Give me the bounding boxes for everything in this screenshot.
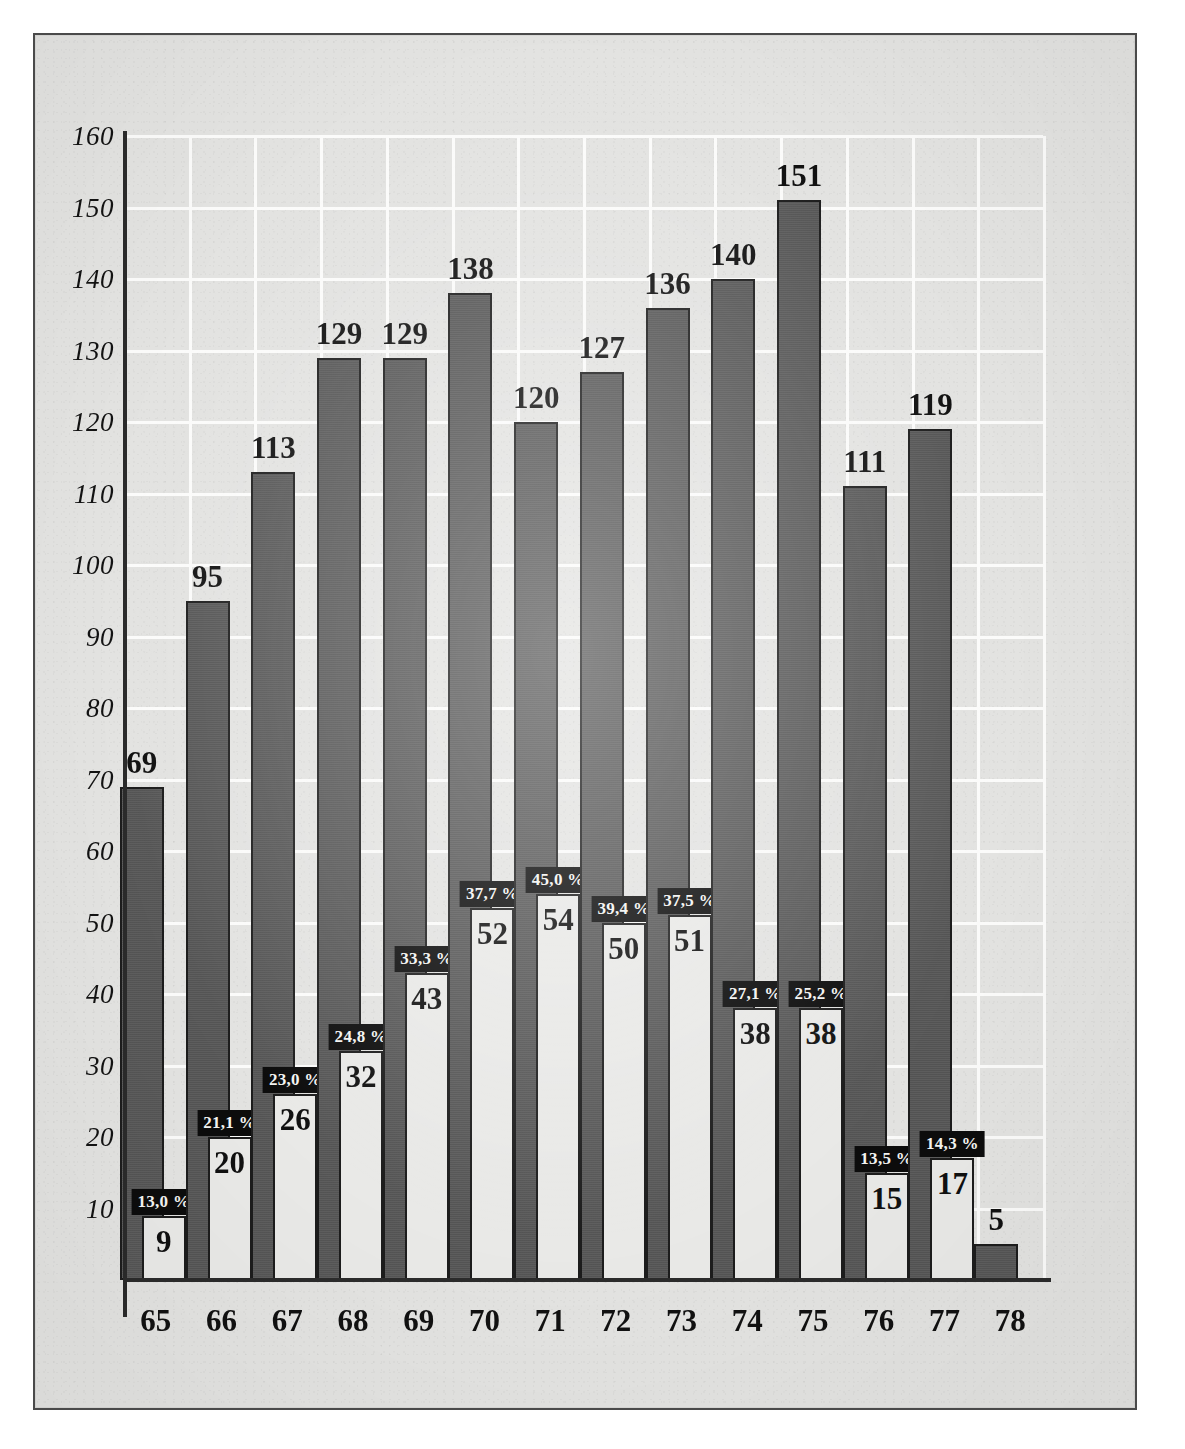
- subset-value-label-69: 43: [411, 981, 442, 1017]
- total-value-label-73: 136: [644, 266, 691, 302]
- x-axis-tick-label-65: 65: [140, 1303, 171, 1339]
- x-axis-tick-label-76: 76: [863, 1303, 894, 1339]
- bar-subset-72: [602, 923, 646, 1281]
- total-value-label-76: 111: [843, 444, 886, 480]
- y-axis-tick-label: 10: [44, 1193, 114, 1224]
- x-axis-tick-label-68: 68: [338, 1303, 369, 1339]
- total-value-label-66: 95: [192, 559, 223, 595]
- total-value-label-74: 140: [710, 237, 757, 273]
- x-axis-tick-label-72: 72: [600, 1303, 631, 1339]
- y-axis-tick-label: 80: [44, 693, 114, 724]
- y-axis-tick-label: 150: [44, 192, 114, 223]
- y-axis-tick-label: 140: [44, 264, 114, 295]
- y-axis-tick-label: 60: [44, 836, 114, 867]
- y-axis-tick-label: 40: [44, 979, 114, 1010]
- percent-badge-77: 14,3 %: [920, 1131, 985, 1157]
- y-axis-tick-label: 160: [44, 121, 114, 152]
- y-axis-tick-label: 120: [44, 407, 114, 438]
- x-axis-tick-label-69: 69: [403, 1303, 434, 1339]
- chart-page: 69913,0 %952021,1 %1132623,0 %1293224,8 …: [0, 0, 1185, 1449]
- total-value-label-65: 69: [126, 745, 157, 781]
- subset-value-label-73: 51: [674, 923, 705, 959]
- total-value-label-78: 5: [988, 1202, 1004, 1238]
- gridline-vertical: [1043, 136, 1046, 1280]
- subset-value-label-67: 26: [280, 1102, 311, 1138]
- subset-value-label-75: 38: [806, 1016, 837, 1052]
- subset-value-label-70: 52: [477, 916, 508, 952]
- x-axis-line: [123, 1278, 1051, 1282]
- subset-value-label-72: 50: [608, 931, 639, 967]
- subset-value-label-68: 32: [346, 1059, 377, 1095]
- subset-value-label-66: 20: [214, 1145, 245, 1181]
- bar-subset-71: [536, 894, 580, 1280]
- total-value-label-72: 127: [579, 330, 626, 366]
- x-axis-tick-label-66: 66: [206, 1303, 237, 1339]
- x-axis-tick-label-74: 74: [732, 1303, 763, 1339]
- y-axis-tick-label: 50: [44, 907, 114, 938]
- subset-value-label-76: 15: [871, 1181, 902, 1217]
- x-axis-tick-label-70: 70: [469, 1303, 500, 1339]
- bar-subset-70: [470, 908, 514, 1280]
- subset-value-label-65: 9: [156, 1224, 172, 1260]
- x-axis-tick-label-75: 75: [798, 1303, 829, 1339]
- gridline-vertical: [977, 136, 980, 1280]
- x-axis-tick-label-78: 78: [995, 1303, 1026, 1339]
- plot-area: 69913,0 %952021,1 %1132623,0 %1293224,8 …: [123, 136, 1043, 1280]
- total-value-label-71: 120: [513, 380, 560, 416]
- y-axis-tick-label: 30: [44, 1050, 114, 1081]
- subset-value-label-74: 38: [740, 1016, 771, 1052]
- y-axis-tick-label: 100: [44, 550, 114, 581]
- y-axis-tick-label: 130: [44, 335, 114, 366]
- y-axis-tick-label: 110: [44, 478, 114, 509]
- total-value-label-68: 129: [316, 316, 363, 352]
- chart-panel: 69913,0 %952021,1 %1132623,0 %1293224,8 …: [33, 33, 1137, 1410]
- bar-subset-69: [405, 973, 449, 1280]
- x-axis-tick-label-73: 73: [666, 1303, 697, 1339]
- total-value-label-70: 138: [447, 251, 494, 287]
- x-axis-tick-label-67: 67: [272, 1303, 303, 1339]
- bar-subset-73: [668, 915, 712, 1280]
- total-value-label-75: 151: [776, 158, 823, 194]
- total-value-label-77: 119: [908, 387, 953, 423]
- x-axis-tick-label-77: 77: [929, 1303, 960, 1339]
- subset-value-label-71: 54: [543, 902, 574, 938]
- y-axis-tick-label: 70: [44, 764, 114, 795]
- x-axis-tick-label-71: 71: [535, 1303, 566, 1339]
- bar-total-78: [974, 1244, 1018, 1280]
- total-value-label-69: 129: [381, 316, 428, 352]
- y-axis-line: [123, 131, 127, 1317]
- subset-value-label-77: 17: [937, 1166, 968, 1202]
- y-axis-tick-label: 90: [44, 621, 114, 652]
- y-axis-tick-label: 20: [44, 1122, 114, 1153]
- total-value-label-67: 113: [251, 430, 296, 466]
